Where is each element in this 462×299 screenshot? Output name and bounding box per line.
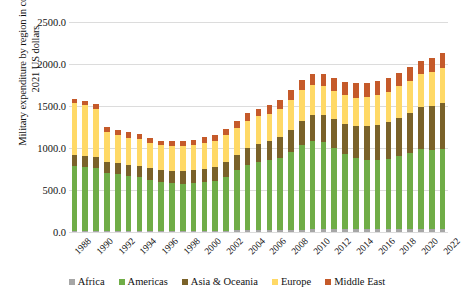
bar-segment [310,115,316,141]
bar-segment [429,58,435,72]
bar-column [137,134,143,232]
bar-segment [191,170,197,183]
bar-column [299,80,305,232]
bar-segment [440,68,446,104]
bar-segment [429,106,435,150]
bar-segment [364,126,370,159]
bar-column [288,90,294,232]
bar-column [386,78,392,232]
bar-segment [72,103,78,155]
bar-segment [440,103,446,148]
bar-segment [440,229,446,232]
legend-label: Americas [128,276,168,287]
bar-segment [396,86,402,117]
legend-swatch-icon [119,279,125,285]
bar-segment [147,168,153,179]
legend-label: Europe [281,276,311,287]
legend-item[interactable]: Americas [119,276,168,287]
bar-segment [72,166,78,231]
bar-segment [126,165,132,176]
bar-segment [331,119,337,148]
bar-segment [267,230,273,232]
bar-column [82,101,88,232]
bar-segment [429,150,435,229]
bar-segment [256,144,262,162]
bar-segment [321,229,327,232]
bar-column [277,100,283,232]
bar-segment [137,166,143,177]
bar-segment [245,113,251,120]
bar-segment [418,61,424,74]
bar-segment [321,86,327,115]
bar-segment [310,141,316,230]
bar-column [310,74,316,232]
bar-segment [321,74,327,86]
legend-label: Africa [78,276,105,287]
legend-item[interactable]: Africa [69,276,105,287]
bar-series-container [69,22,448,232]
bar-segment [191,183,197,230]
bar-segment [212,231,218,232]
bar-segment [353,126,359,158]
bar-segment [386,229,392,232]
bar-column [407,67,413,232]
bar-segment [93,157,99,168]
bar-segment [137,231,143,232]
chart-legend: AfricaAmericasAsia & OceaniaEuropeMiddle… [0,276,454,287]
bar-segment [202,143,208,169]
bar-segment [245,121,251,148]
bar-segment [310,74,316,85]
bar-segment [212,141,218,167]
legend-label: Middle East [334,276,385,287]
bar-column [321,74,327,232]
legend-item[interactable]: Europe [272,276,311,287]
bar-segment [375,229,381,232]
bar-segment [353,158,359,229]
bar-segment [396,73,402,86]
bar-segment [137,177,143,231]
bar-segment [407,229,413,232]
bar-segment [256,109,262,117]
bar-segment [147,180,153,231]
bar-column [375,81,381,232]
bar-segment [180,184,186,231]
bar-segment [299,121,305,145]
bar-segment [256,116,262,144]
bar-segment [82,231,88,233]
bar-segment [104,162,110,173]
bar-segment [342,82,348,95]
legend-item[interactable]: Middle East [325,276,385,287]
bar-segment [407,113,413,153]
bar-segment [104,173,110,231]
bar-column [126,132,132,232]
legend-item[interactable]: Asia & Oceania [182,276,258,287]
bar-segment [418,149,424,229]
bar-segment [158,170,164,182]
gridline [69,232,448,233]
bar-column [364,83,370,232]
bar-segment [364,97,370,126]
bar-segment [82,156,88,167]
bar-segment [212,167,218,181]
y-axis-tick-label: 1500.0 [6,101,66,112]
bar-segment [386,122,392,159]
bar-column [342,82,348,232]
bar-segment [234,230,240,232]
bar-segment [267,114,273,142]
bar-segment [82,167,88,231]
bar-segment [202,182,208,230]
bar-segment [386,92,392,122]
bar-segment [331,229,337,232]
bar-segment [104,132,110,162]
bar-segment [202,169,208,182]
bar-segment [364,83,370,98]
bar-segment [277,100,283,109]
bar-segment [321,115,327,142]
bar-segment [212,181,218,230]
bar-column [180,141,186,232]
bar-segment [321,142,327,229]
bar-segment [418,74,424,108]
bar-segment [245,165,251,231]
bar-segment [256,162,262,230]
